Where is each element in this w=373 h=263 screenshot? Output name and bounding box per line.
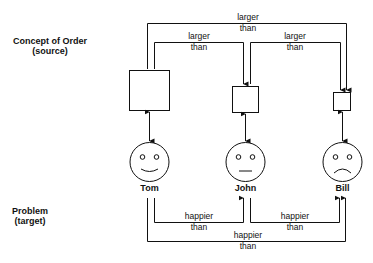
label-john-bill-line1: happier <box>281 211 310 221</box>
label-big-small-line2: than <box>240 23 257 33</box>
face-john <box>226 143 265 182</box>
small-square <box>334 93 351 111</box>
label-tom-bill-line1: happier <box>234 230 263 240</box>
name-bill: Bill <box>335 183 349 193</box>
label-big-small-line1: larger <box>237 12 259 22</box>
analogy-diagram: Tom John Bill larger than larger than la… <box>0 0 373 263</box>
label-tom-john-line2: than <box>191 222 208 232</box>
connector-big-to-small-larger <box>148 24 347 91</box>
name-tom: Tom <box>140 183 158 193</box>
label-medium-small-line2: than <box>287 42 304 52</box>
label-big-medium-line2: than <box>191 42 208 52</box>
name-john: John <box>235 183 257 193</box>
label-medium-small-line1: larger <box>284 31 306 41</box>
label-tom-john-line1: happier <box>185 211 214 221</box>
big-square <box>130 71 170 111</box>
face-bill <box>323 143 362 182</box>
label-john-bill-line2: than <box>287 222 304 232</box>
face-tom <box>130 143 169 182</box>
label-big-medium-line1: larger <box>188 31 210 41</box>
medium-square <box>233 87 259 113</box>
label-tom-bill-line2: than <box>240 241 257 251</box>
